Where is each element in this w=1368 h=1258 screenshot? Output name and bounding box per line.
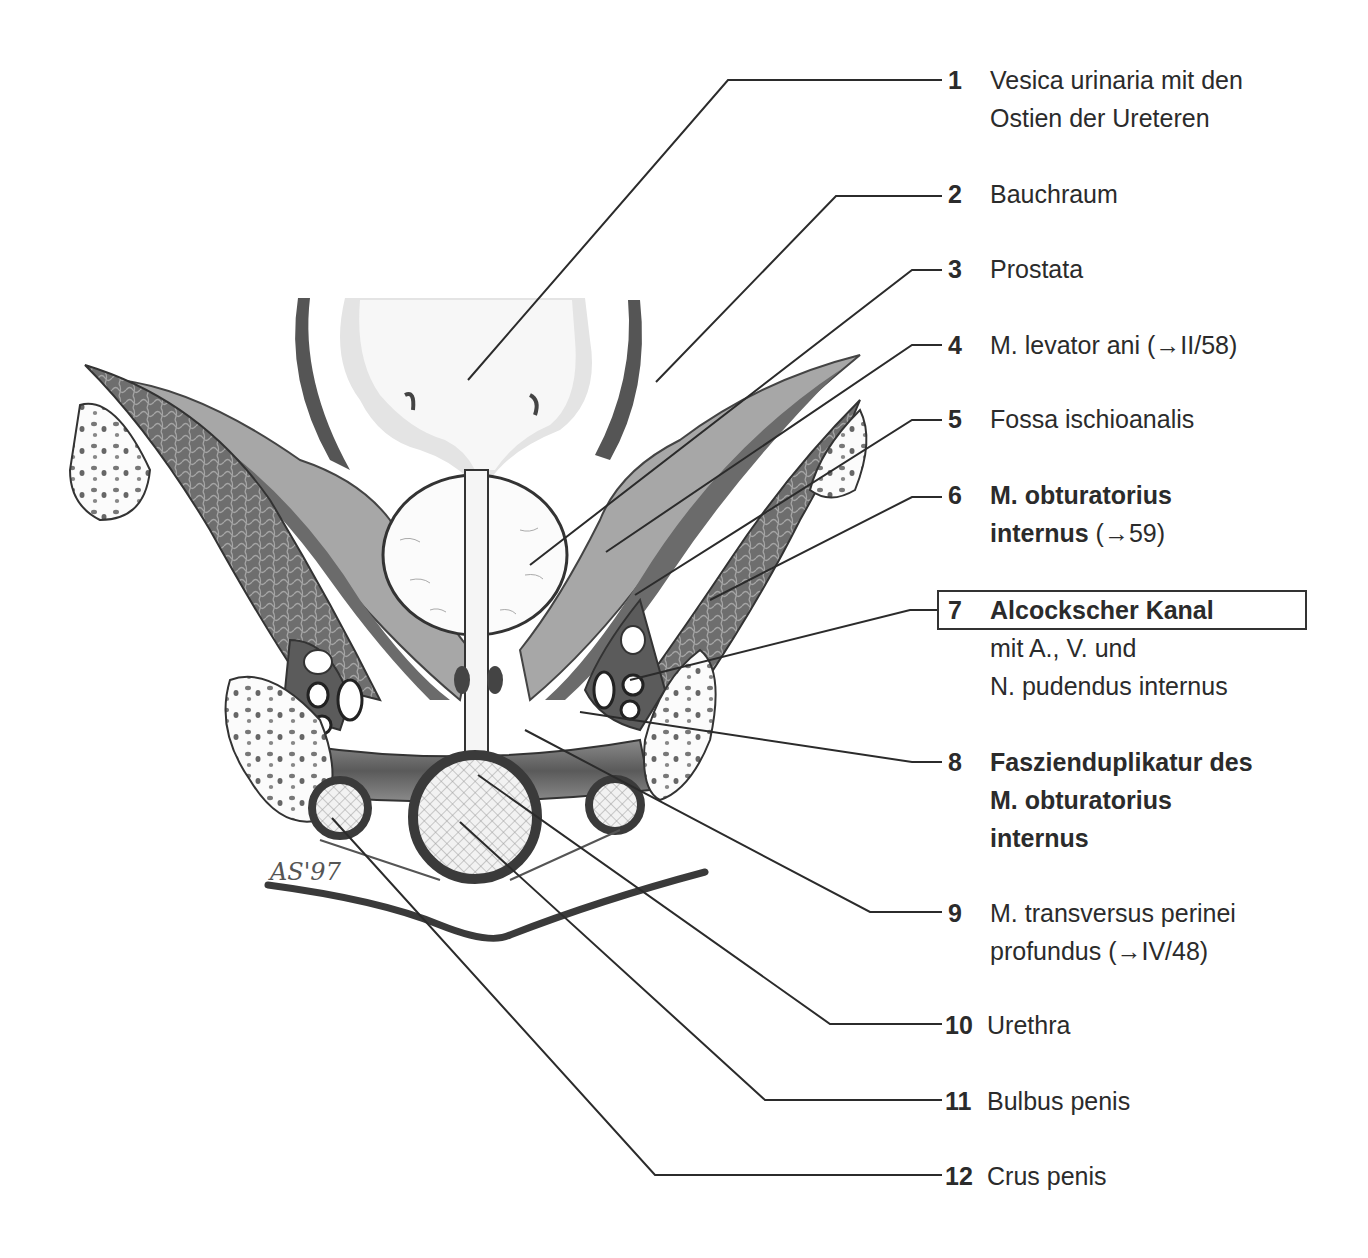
bulbus-penis	[413, 755, 537, 879]
artist-signature: AS'97	[268, 858, 342, 886]
bladder-region	[295, 298, 642, 480]
